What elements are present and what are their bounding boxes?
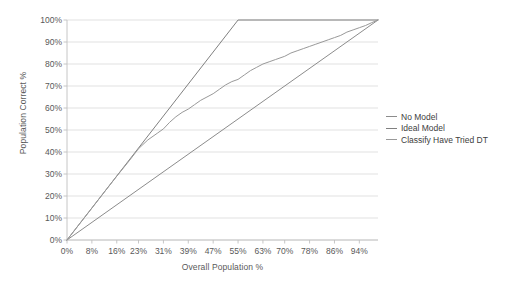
x-axis-title: Overall Population % — [67, 262, 378, 272]
legend-item-label: Ideal Model — [401, 124, 445, 133]
legend-item[interactable]: No Model — [386, 111, 506, 123]
chart-legend: No ModelIdeal ModelClassify Have Tried D… — [386, 111, 506, 146]
x-tick-label: 94% — [339, 247, 379, 256]
legend-line-swatch-icon — [386, 139, 397, 140]
legend-line-swatch-icon — [386, 116, 397, 117]
chart-container: 0%10%20%30%40%50%60%70%80%90%100% 0%8%16… — [0, 0, 511, 289]
legend-item[interactable]: Classify Have Tried DT — [386, 134, 506, 146]
legend-item[interactable]: Ideal Model — [386, 123, 506, 135]
y-axis-title: Population Correct % — [18, 53, 28, 173]
legend-line-swatch-icon — [386, 128, 397, 129]
legend-item-label: No Model — [401, 113, 437, 122]
legend-item-label: Classify Have Tried DT — [401, 136, 488, 145]
